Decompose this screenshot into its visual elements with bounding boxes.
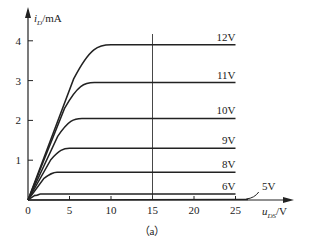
x-axis-label: uDS/V — [262, 205, 287, 220]
x-tick-label: 10 — [106, 204, 118, 216]
curve-label-5V: 5V — [262, 180, 276, 192]
axes — [25, 7, 294, 203]
curve-label-10V: 10V — [217, 104, 236, 116]
x-tick-label: 5 — [67, 204, 73, 216]
curve-label-12V: 12V — [217, 31, 236, 43]
x-tick-label: 0 — [25, 204, 31, 216]
curve-label-9V: 9V — [222, 134, 236, 146]
x-tick-label: 20 — [189, 204, 201, 216]
x-tick-label: 25 — [230, 204, 242, 216]
y-axis-arrow-icon — [25, 7, 31, 18]
curve-11V — [28, 83, 236, 200]
y-tick-label: 2 — [16, 114, 22, 126]
y-tick-label: 4 — [16, 35, 22, 47]
curve-label-8V: 8V — [222, 158, 236, 170]
curve-9V — [28, 148, 236, 200]
curve-label-6V: 6V — [222, 180, 236, 192]
curve-8V — [28, 172, 236, 200]
x-tick-label: 15 — [147, 204, 159, 216]
y-tick-label: 3 — [16, 75, 22, 87]
x-axis-arrow-icon — [283, 197, 294, 203]
curve-5V — [28, 200, 248, 201]
curve-label-11V: 11V — [217, 69, 236, 81]
leader-line-5V — [246, 192, 258, 199]
output-characteristics-chart: 1234051015202512V11V10V9V8V6V5ViD/mAuDS/… — [0, 0, 309, 249]
curve-10V — [28, 118, 236, 200]
y-tick-label: 1 — [16, 154, 22, 166]
figure-caption: （a） — [139, 225, 166, 237]
y-axis-label: iD/mA — [34, 12, 62, 27]
